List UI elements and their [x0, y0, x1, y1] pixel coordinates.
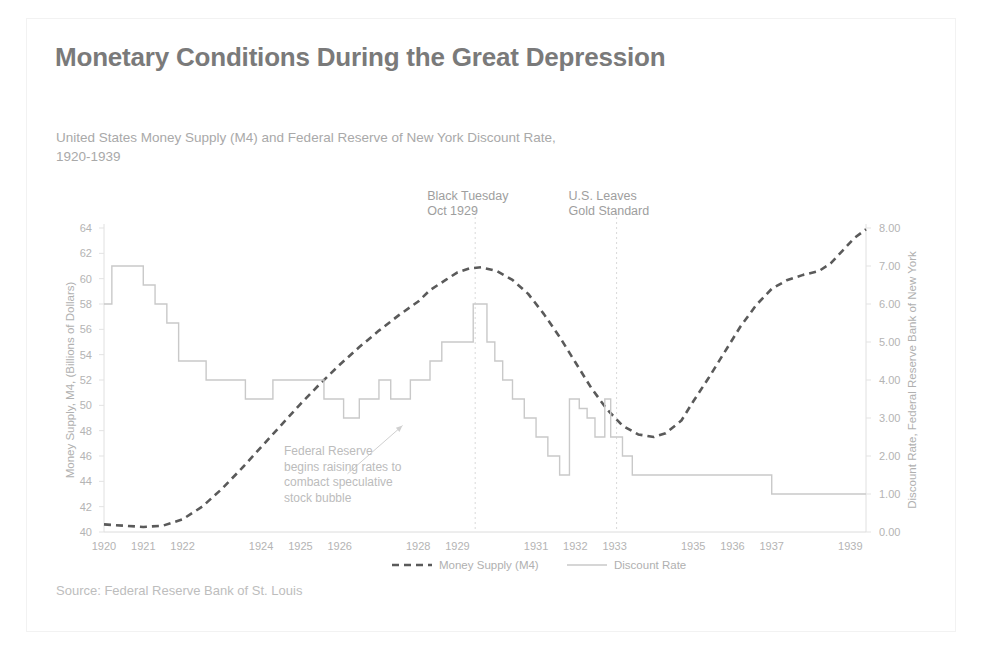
y2-tick-label-1: 1.00	[879, 488, 900, 500]
chart-axes	[104, 224, 866, 532]
y2-axis-title: Discount Rate, Federal Reserve Bank of N…	[906, 251, 918, 509]
y-tick-label-3: 46	[80, 450, 92, 462]
axis-titles: Money Supply, M4, (Billions of Dollars)D…	[64, 251, 918, 509]
x-tick-label-10: 1933	[602, 540, 626, 552]
x-tick-label-14: 1939	[838, 540, 862, 552]
annotation-text-fed-raises-rates-line3: combact speculative	[284, 475, 393, 489]
x-tick-label-9: 1932	[563, 540, 587, 552]
series-path-money-supply	[104, 229, 866, 527]
x-tick-label-11: 1935	[681, 540, 705, 552]
line-chart: 40424446485052545658606264 0.001.002.003…	[0, 0, 982, 649]
y-tick-label-7: 54	[80, 349, 92, 361]
x-tick-label-4: 1925	[288, 540, 312, 552]
event-labels: Black TuesdayOct 1929U.S. LeavesGold Sta…	[427, 189, 649, 218]
x-tick-label-1: 1921	[131, 540, 155, 552]
chart-legend: Money Supply (M4)Discount Rate	[392, 559, 686, 571]
x-tick-label-13: 1937	[759, 540, 783, 552]
annotation-text-fed-raises-rates-line2: begins raising rates to	[284, 460, 402, 474]
legend-label-0: Money Supply (M4)	[439, 559, 539, 571]
y-tick-label-10: 60	[80, 273, 92, 285]
y-tick-label-12: 64	[80, 222, 92, 234]
event-label-gold-standard-line1: U.S. Leaves	[569, 189, 637, 203]
y2-tick-label-5: 5.00	[879, 336, 900, 348]
y-tick-label-0: 40	[80, 526, 92, 538]
y2-tick-label-8: 8.00	[879, 222, 900, 234]
y2-tick-label-4: 4.00	[879, 374, 900, 386]
legend-label-1: Discount Rate	[614, 559, 686, 571]
series-path-discount-rate	[104, 266, 866, 494]
source-note: Source: Federal Reserve Bank of St. Loui…	[56, 583, 302, 598]
y2-tick-label-3: 3.00	[879, 412, 900, 424]
event-label-black-tuesday-line1: Black Tuesday	[427, 189, 509, 203]
annotation-text-fed-raises-rates-line1: Federal Reserve	[284, 444, 373, 458]
x-tick-label-5: 1926	[327, 540, 351, 552]
y-axis-ticks-left: 40424446485052545658606264	[80, 222, 104, 538]
x-tick-label-12: 1936	[720, 540, 744, 552]
x-tick-label-8: 1931	[524, 540, 548, 552]
chart-series	[104, 229, 866, 527]
y-tick-label-11: 62	[80, 247, 92, 259]
y-axis-title: Money Supply, M4, (Billions of Dollars)	[64, 282, 76, 479]
x-axis-ticks: 1920192119221924192519261928192919311932…	[92, 540, 863, 552]
y-tick-label-1: 42	[80, 501, 92, 513]
y2-tick-label-7: 7.00	[879, 260, 900, 272]
x-tick-label-7: 1929	[445, 540, 469, 552]
y-tick-label-6: 52	[80, 374, 92, 386]
event-label-black-tuesday-line2: Oct 1929	[427, 204, 478, 218]
x-tick-label-0: 1920	[92, 540, 116, 552]
y2-tick-label-0: 0.00	[879, 526, 900, 538]
annotation-text-fed-raises-rates-line4: stock bubble	[284, 491, 352, 505]
y-tick-label-4: 48	[80, 425, 92, 437]
page-root: Monetary Conditions During the Great Dep…	[0, 0, 982, 649]
y2-tick-label-6: 6.00	[879, 298, 900, 310]
event-label-gold-standard-line2: Gold Standard	[569, 204, 650, 218]
y-tick-label-8: 56	[80, 323, 92, 335]
x-tick-label-6: 1928	[406, 540, 430, 552]
y2-tick-label-2: 2.00	[879, 450, 900, 462]
event-gridlines	[475, 212, 616, 532]
chart-annotations: Federal Reservebegins raising rates toco…	[284, 426, 403, 505]
y-axis-ticks-right: 0.001.002.003.004.005.006.007.008.00	[866, 222, 900, 538]
chart-container: 40424446485052545658606264 0.001.002.003…	[0, 0, 982, 649]
y-tick-label-5: 50	[80, 399, 92, 411]
y-tick-label-2: 44	[80, 475, 92, 487]
x-tick-label-3: 1924	[249, 540, 273, 552]
y-tick-label-9: 58	[80, 298, 92, 310]
x-tick-label-2: 1922	[170, 540, 194, 552]
